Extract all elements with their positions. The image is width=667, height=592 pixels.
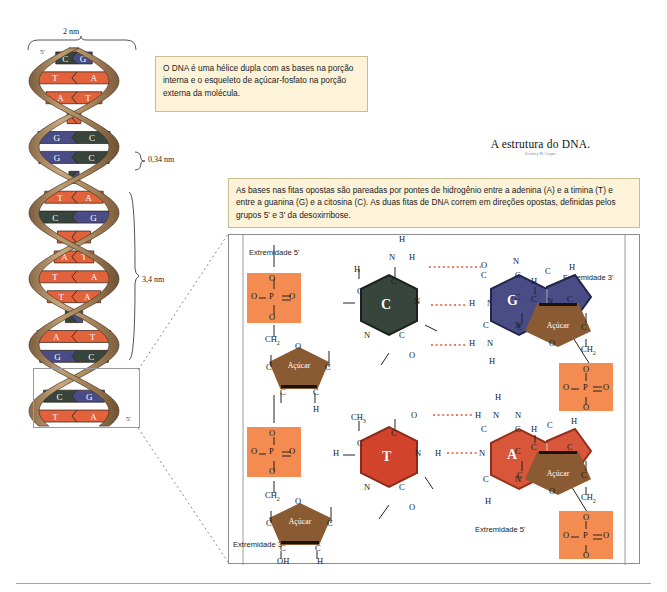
page-footer-rule bbox=[16, 583, 651, 584]
phosphate-bonds-bottom-right bbox=[555, 505, 625, 569]
atom-nitrogen: N bbox=[414, 297, 420, 306]
atom-oxygen: O bbox=[289, 447, 295, 456]
atom-nitrogen: N bbox=[515, 411, 521, 420]
atom-nitrogen: N bbox=[364, 483, 370, 492]
atom-oxygen: O bbox=[289, 292, 295, 301]
atom-carbon: C bbox=[391, 429, 397, 438]
detail-end-label-bottom-right: Extremidade 5' bbox=[475, 525, 525, 534]
atom-oxygen: O bbox=[251, 292, 257, 301]
helix-detail-crop-box bbox=[33, 368, 140, 428]
helix-base-letter: A bbox=[91, 73, 98, 83]
author-credit: Geoffrey M. Cooper bbox=[438, 152, 643, 156]
atom-nitrogen: N bbox=[415, 449, 421, 458]
page-title: A estrutura do DNA. bbox=[438, 138, 643, 150]
atom-carbon: C bbox=[266, 363, 272, 372]
atom-oxygen: O bbox=[269, 313, 275, 322]
atom-hydrogen: H bbox=[333, 449, 339, 458]
zoom-leader-lines bbox=[136, 218, 232, 566]
atom-phosphorus: P bbox=[269, 447, 274, 456]
atom-oxygen: O bbox=[411, 411, 417, 420]
atom-carbon: C bbox=[483, 321, 489, 330]
callout-helix-description: O DNA é uma hélice dupla com as bases na… bbox=[155, 56, 368, 112]
rise-bracket bbox=[133, 150, 147, 172]
helix-base-letter: C bbox=[89, 153, 95, 163]
figure-page: 2 nm 5' 3' 3' 5' CGTAATGCGC bbox=[0, 0, 667, 592]
base-pair-rung: TA bbox=[34, 72, 113, 84]
helix-base-letter: T bbox=[90, 332, 96, 342]
atom-oxygen: O bbox=[251, 447, 257, 456]
helix-base-letter: G bbox=[54, 153, 61, 163]
atom-carbon: C bbox=[545, 267, 551, 276]
atom-hydrogen: H bbox=[399, 235, 405, 244]
atom-carbon: C bbox=[391, 277, 397, 286]
helix-base-letter: C bbox=[88, 352, 94, 362]
base-pair-rung: TA bbox=[34, 271, 114, 283]
helix-base-letter: C bbox=[89, 133, 95, 143]
atom-nitrogen: N bbox=[364, 331, 370, 340]
atom-oxygen: O bbox=[409, 351, 415, 360]
helix-base-letter: G bbox=[53, 133, 60, 143]
helix-base-letter: G bbox=[54, 352, 61, 362]
atom-nitrogen: N bbox=[513, 257, 519, 266]
atom-carbon: C bbox=[357, 287, 363, 296]
atom-hydrogen: H bbox=[409, 253, 415, 262]
atom-carbon: C bbox=[483, 475, 489, 484]
base-pair-rung: CG bbox=[35, 211, 113, 223]
helix-base-letter: T bbox=[52, 73, 58, 83]
callout-base-pairing-description: As bases nas fitas opostas são pareadas … bbox=[228, 178, 640, 228]
atom-carbon: C bbox=[399, 331, 405, 340]
atom-oxygen: O bbox=[269, 274, 275, 283]
base-pair-detail-panel: Extremidade 5' Extremidade 3' Extremidad… bbox=[228, 234, 640, 564]
atom-oxygen: O bbox=[409, 503, 415, 512]
atom-hydrogen: H bbox=[485, 497, 491, 506]
helix-base-letter: T bbox=[57, 193, 63, 203]
helix-base-letter: T bbox=[52, 272, 58, 282]
atom-hydrogen: H bbox=[569, 263, 575, 272]
atom-carbon: C bbox=[399, 483, 405, 492]
atom-nitrogen: N bbox=[389, 253, 395, 262]
base-pair-rung: GC bbox=[39, 151, 109, 163]
atom-oxygen: O bbox=[269, 467, 275, 476]
atom-phosphorus: P bbox=[269, 292, 274, 301]
helix-base-letter: A bbox=[91, 272, 98, 282]
atom-carbon: C bbox=[481, 271, 487, 280]
base-pair-rung: AT bbox=[37, 330, 111, 342]
atom-oxygen: O bbox=[269, 429, 275, 438]
atom-carbon: C bbox=[357, 439, 363, 448]
title-block: A estrutura do DNA. Geoffrey M. Cooper bbox=[438, 138, 643, 156]
atom-hydrogen: H bbox=[495, 393, 501, 402]
helix-base-letter: A bbox=[53, 332, 60, 342]
helix-base-letter: C bbox=[52, 213, 58, 223]
helix-base-letter: A bbox=[85, 193, 92, 203]
helix-base-letter: A bbox=[57, 93, 64, 103]
atom-carbon: C bbox=[481, 425, 487, 434]
helix-width-label: 2 nm bbox=[63, 27, 79, 36]
base-pair-rung: GC bbox=[38, 132, 110, 144]
rise-per-base-label: 0,34 nm bbox=[148, 155, 174, 164]
atom-methyl: CH3 bbox=[351, 413, 366, 424]
atom-hydrogen: H bbox=[354, 265, 360, 274]
helix-base-letter: G bbox=[90, 213, 97, 223]
atom-oxygen: O bbox=[295, 342, 301, 351]
atom-hydrogen: H bbox=[571, 417, 577, 426]
